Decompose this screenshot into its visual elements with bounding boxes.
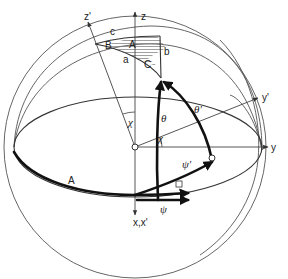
label-theta-prime: θ' [194,103,202,115]
label-theta: θ [161,112,167,124]
vertex-C: C [144,59,151,70]
psi-arrows [135,155,215,200]
label-x: x,x' [133,217,148,228]
label-y-prime: y' [262,92,269,103]
label-chi-upper: χ [127,116,134,128]
sphere-diagram: z z' y y' x,x' c B A a C b χ χ θ θ' ψ' ψ… [0,0,288,279]
label-y: y [271,142,276,153]
vertex-B: B [105,40,112,51]
label-z: z [141,11,146,22]
label-z-prime: z' [84,11,91,22]
side-b: b [164,46,170,57]
label-arc-A: A [68,175,75,186]
labels: z z' y y' x,x' c B A a C b χ χ θ θ' ψ' ψ… [68,11,276,228]
label-chi-lower: χ [157,132,164,144]
side-a: a [123,54,129,65]
label-psi: ψ [160,203,167,215]
diagram-canvas: z z' y y' x,x' c B A a C b χ χ θ θ' ψ' ψ… [0,0,288,279]
vertex-A: A [129,39,136,50]
label-psi-prime: ψ' [182,158,192,170]
side-c: c [110,26,115,37]
theta-arrows [157,82,212,200]
origin-point [132,144,138,150]
